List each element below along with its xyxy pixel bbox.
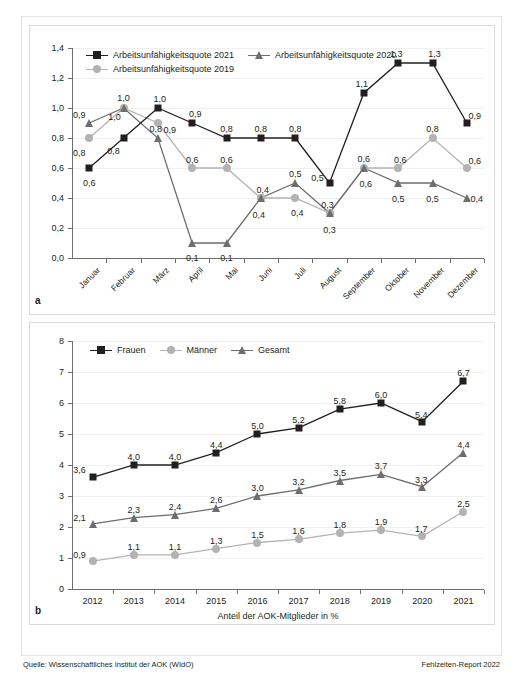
x-axis-title: Anteil der AOK-Mitglieder in %: [217, 611, 338, 621]
data-label: 5,8: [334, 396, 347, 406]
data-point-arbeitsunf-higkeitsquote-2020: [120, 104, 128, 112]
data-label: 3,6: [73, 465, 86, 475]
data-point-arbeitsunf-higkeitsquote-2020: [223, 239, 231, 247]
data-point-gesamt: [212, 504, 220, 512]
source-note: Quelle: Wissenschaftliches Institut der …: [23, 660, 193, 669]
data-point-m-nner: [89, 557, 97, 565]
legend-label: Männer: [187, 345, 218, 355]
y-axis-label: 0,6: [38, 163, 64, 173]
x-axis-label: 2015: [193, 596, 239, 606]
data-point-frauen: [460, 378, 467, 385]
data-label: 1,9: [375, 517, 388, 527]
data-point-m-nner: [459, 508, 467, 516]
data-label: 3,7: [375, 461, 388, 471]
data-label: 0,5: [392, 194, 405, 204]
legend-row: Arbeitsunfähigkeitsquote 2019: [86, 64, 248, 74]
legend-item-gesamt[interactable]: Gesamt: [231, 345, 290, 355]
series-line-arbeitsunf-higkeitsquote-2021: [89, 63, 467, 183]
data-point-arbeitsunf-higkeitsquote-2021: [292, 135, 299, 142]
data-label: 0,9: [469, 111, 482, 121]
y-axis-label: 3: [38, 491, 64, 501]
data-label: 6,0: [375, 390, 388, 400]
data-label: 4,0: [128, 452, 141, 462]
legend-item-frauen[interactable]: Frauen: [90, 345, 146, 355]
data-point-arbeitsunf-higkeitsquote-2020: [394, 179, 402, 187]
data-point-frauen: [295, 424, 302, 431]
data-point-gesamt: [130, 514, 138, 522]
data-point-arbeitsunf-higkeitsquote-2021: [429, 60, 436, 67]
data-label: 0,6: [220, 155, 233, 165]
panel-letter-a: a: [35, 295, 41, 306]
legend-item-arbeitsunf-higkeitsquote-2019[interactable]: Arbeitsunfähigkeitsquote 2019: [86, 64, 234, 74]
legend-item-arbeitsunf-higkeitsquote-2021[interactable]: Arbeitsunfähigkeitsquote 2021: [86, 50, 234, 60]
data-point-arbeitsunf-higkeitsquote-2020: [154, 134, 162, 142]
legend-marker-icon: [160, 345, 182, 355]
data-point-gesamt: [336, 477, 344, 485]
data-point-gesamt: [459, 449, 467, 457]
series-line-gesamt: [93, 453, 464, 524]
y-axis-label: 6: [38, 398, 64, 408]
data-point-frauen: [336, 406, 343, 413]
x-axis-label: 2019: [358, 596, 404, 606]
y-axis-label: 7: [38, 367, 64, 377]
data-point-arbeitsunf-higkeitsquote-2019: [394, 164, 402, 172]
data-point-m-nner: [295, 535, 303, 543]
y-axis-label: 0: [38, 584, 64, 594]
data-label: 4,4: [210, 440, 223, 450]
series-line-frauen: [93, 381, 464, 477]
y-axis-label: 1: [38, 553, 64, 563]
data-point-frauen: [378, 400, 385, 407]
y-axis-label: 1,0: [38, 103, 64, 113]
data-label: 0,6: [469, 156, 482, 166]
data-point-arbeitsunf-higkeitsquote-2021: [120, 135, 127, 142]
data-label: 0,5: [289, 169, 302, 179]
data-point-arbeitsunf-higkeitsquote-2021: [223, 135, 230, 142]
data-point-m-nner: [212, 545, 220, 553]
series-line-arbeitsunf-higkeitsquote-2019: [89, 108, 467, 213]
data-point-gesamt: [253, 492, 261, 500]
y-axis-label: 4: [38, 460, 64, 470]
legend-item-m-nner[interactable]: Männer: [160, 345, 218, 355]
data-label: 1,0: [108, 112, 121, 122]
data-label: 0,8: [220, 124, 233, 134]
legend-marker-icon: [86, 50, 108, 60]
y-axis-label: 2: [38, 522, 64, 532]
series-lines: [72, 48, 484, 260]
data-label: 0,8: [107, 146, 120, 156]
x-axis-label: 2017: [276, 596, 322, 606]
legend-item-arbeitsunf-higkeitsquote-2020[interactable]: Arbeitsunfähigkeitsquote 2020: [248, 50, 396, 60]
data-point-arbeitsunf-higkeitsquote-2019: [188, 164, 196, 172]
y-axis-label: 0,2: [38, 223, 64, 233]
plot-area-b: 0123456782012201320142015201620172018201…: [72, 341, 484, 589]
data-label: 0,1: [220, 253, 233, 263]
data-point-gesamt: [171, 511, 179, 519]
data-label: 0,8: [426, 124, 439, 134]
legend-marker-icon: [90, 345, 112, 355]
data-label: 0,1: [186, 253, 199, 263]
data-point-arbeitsunf-higkeitsquote-2021: [395, 60, 402, 67]
data-point-arbeitsunf-higkeitsquote-2019: [291, 194, 299, 202]
data-point-arbeitsunf-higkeitsquote-2019: [429, 134, 437, 142]
data-label: 1,1: [169, 542, 182, 552]
y-axis-label: 1,4: [38, 43, 64, 53]
data-point-arbeitsunf-higkeitsquote-2021: [360, 90, 367, 97]
series-line-m-nner: [93, 512, 464, 562]
data-point-frauen: [130, 462, 137, 469]
data-label: 2,4: [169, 502, 182, 512]
legend-label: Arbeitsunfähigkeitsquote 2020: [275, 50, 396, 60]
data-label: 0,8: [255, 124, 268, 134]
data-label: 0,6: [394, 155, 407, 165]
data-point-frauen: [89, 474, 96, 481]
data-label: 1,3: [428, 49, 441, 59]
data-label: 3,0: [251, 483, 264, 493]
data-label: 0,4: [291, 208, 304, 218]
data-label: 5,4: [415, 410, 428, 420]
legend-marker-icon: [86, 64, 108, 74]
data-label: 3,5: [334, 468, 347, 478]
y-axis-label: 1,2: [38, 73, 64, 83]
data-label: 6,7: [457, 368, 470, 378]
data-label: 2,1: [73, 513, 86, 523]
data-label: 0,5: [426, 194, 439, 204]
panel-letter-b: b: [35, 605, 41, 616]
data-label: 0,8: [289, 124, 302, 134]
